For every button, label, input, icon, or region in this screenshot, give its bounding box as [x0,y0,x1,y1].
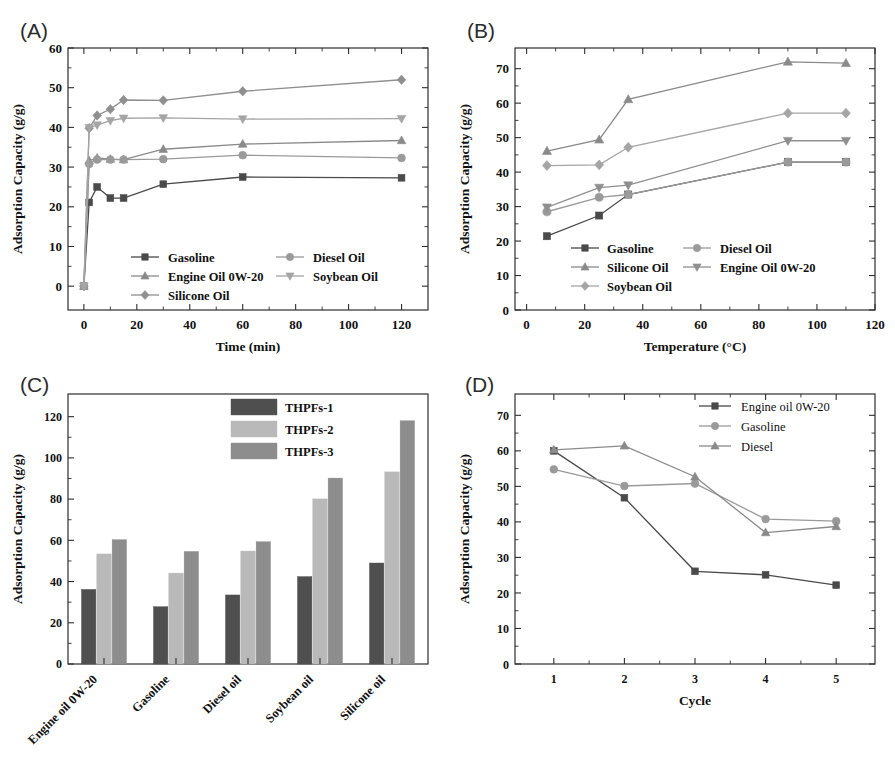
x-tick-label: 20 [578,317,591,332]
x-axis: Engine oil 0W-20GasolineDiesel oilSoybea… [25,658,392,747]
legend-label: Gasoline [741,420,786,434]
panel-d: (D)01020304050607012345CycleAdsorption C… [447,374,895,776]
legend-label: Silicone Oil [168,289,230,303]
series-group [542,57,850,240]
data-point [691,480,699,488]
data-point [692,568,699,575]
x-category-label: Soybean oil [263,672,317,726]
y-axis-title: Adsorption Capacity (g/g) [10,454,25,604]
bar [313,499,327,664]
legend-item-soybean-oil: Soybean Oil [276,270,378,284]
x-tick-label: 120 [392,317,412,332]
data-point [762,515,770,523]
x-tick-label: 40 [636,317,649,332]
series-line [547,162,846,212]
chart-c: (C)020406080100120Adsorption Capacity (g… [0,374,448,776]
data-point [841,137,850,145]
y-axis: 0102030405060 [49,41,428,294]
y-tick-label: 120 [44,410,62,424]
y-axis: 020406080100120 [44,410,74,671]
panel-a-label: (A) [20,19,48,42]
x-axis-title: Temperature (°C) [644,339,747,354]
bar [184,551,198,664]
y-tick-label: 40 [49,120,62,135]
data-point [238,87,247,96]
legend-d: Engine oil 0W-20GasolineDiesel [699,400,830,454]
y-tick-label: 30 [49,160,62,175]
legend-label: Diesel [741,440,773,454]
y-tick-label: 70 [496,61,509,76]
x-tick-label: 20 [130,317,143,332]
bar [97,554,111,664]
data-point [106,156,114,164]
data-point [239,174,246,181]
data-point [397,75,406,84]
legend-item-engine-oil-0w-20: Engine Oil 0W-20 [131,270,263,284]
y-tick-label: 40 [50,575,62,589]
legend-label: Soybean Oil [313,270,378,284]
x-tick-label: 80 [289,317,302,332]
data-point [239,151,247,159]
data-point [159,155,167,163]
data-point [621,494,628,501]
legend-marker [693,244,700,251]
bar [385,472,399,664]
data-point [397,136,406,144]
data-point [542,161,551,171]
chart-a: (A)0102030405060020406080100120Time (min… [0,0,448,374]
legend-swatch [231,443,277,459]
series-line [547,62,846,151]
y-tick-label: 60 [50,534,62,548]
bar [369,563,383,664]
legend-item-thpfs-3: THPFs-3 [231,443,334,459]
data-point [624,190,632,198]
data-point [106,104,115,113]
legend-item-gasoline: Gasoline [571,242,654,256]
legend-item-diesel-oil: Diesel Oil [683,242,772,256]
bar [169,573,183,664]
y-tick-label: 10 [49,239,62,254]
series-line [547,141,846,208]
data-point [398,154,406,162]
data-point [833,582,840,589]
y-tick-label: 60 [49,41,62,56]
y-tick-label: 60 [496,96,509,111]
x-tick-label: 4 [763,672,769,686]
data-point [238,116,247,124]
legend-marker [711,422,718,429]
legend-marker [581,282,589,291]
bar [400,421,414,664]
y-axis-title: Adsorption Capacity (g/g) [457,104,472,254]
legend-item-engine-oil-0w-20: Engine Oil 0W-20 [683,261,815,275]
y-tick-label: 0 [56,657,62,671]
series-silicone-oil [542,57,850,154]
y-tick-label: 80 [50,492,62,506]
legend-marker [141,291,149,300]
series-group [550,441,841,588]
y-tick-label: 10 [497,622,509,636]
y-tick-label: 20 [49,199,62,214]
bar [328,478,342,664]
data-point [160,181,167,188]
legend-item-soybean-oil: Soybean Oil [571,280,672,294]
legend-label: Diesel Oil [313,251,365,265]
panel-c: (C)020406080100120Adsorption Capacity (g… [0,374,448,776]
x-tick-label: 80 [752,317,765,332]
y-tick-label: 50 [49,80,62,95]
legend-label: THPFs-2 [285,423,334,437]
data-point [595,193,603,201]
plot-frame [515,394,875,664]
bar [241,551,255,664]
x-tick-label: 0 [523,317,530,332]
legend-item-thpfs-1: THPFs-1 [231,399,334,415]
x-tick-label: 40 [183,317,196,332]
x-category-label: Engine oil 0W-20 [25,672,100,747]
y-tick-label: 30 [496,199,509,214]
data-point [621,482,629,490]
x-tick-label: 60 [694,317,707,332]
x-tick-label: 1 [551,672,557,686]
legend-a: GasolineDiesel OilEngine Oil 0W-20Soybea… [131,251,378,303]
y-tick-label: 60 [497,444,509,458]
series-gasoline [543,159,849,240]
panel-d-label: (D) [465,374,494,396]
